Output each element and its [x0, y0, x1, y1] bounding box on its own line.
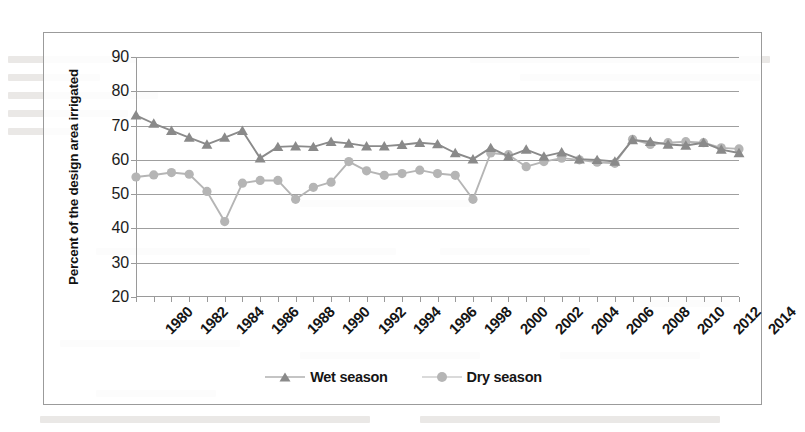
x-tick-label-2014: 2014: [764, 303, 798, 337]
data-point: [202, 187, 211, 196]
data-point: [415, 166, 424, 175]
data-point: [185, 170, 194, 179]
data-point: [522, 162, 531, 171]
series-dry-season: [131, 135, 743, 226]
legend-item-dry-season[interactable]: Dry season: [422, 369, 542, 385]
y-tick-label-30: 30: [112, 254, 129, 272]
x-tick-label-1992: 1992: [374, 303, 408, 337]
data-point: [468, 195, 477, 204]
data-point: [166, 126, 177, 135]
chart-figure-frame: Percent of the design area irrigated 908…: [43, 32, 762, 405]
y-tick-label-80: 80: [112, 82, 129, 100]
x-tick-label-2012: 2012: [729, 303, 763, 337]
data-point: [521, 144, 532, 153]
x-tick-label-1988: 1988: [303, 303, 337, 337]
series-line: [136, 139, 739, 221]
chart-legend: Wet season Dry season: [44, 369, 763, 385]
legend-marker-wet-season: [265, 369, 305, 385]
legend-item-wet-season[interactable]: Wet season: [265, 369, 387, 385]
data-point: [167, 168, 176, 177]
x-tick-label-1996: 1996: [445, 303, 479, 337]
data-point: [450, 148, 461, 157]
y-tick-label-50: 50: [112, 185, 129, 203]
data-point: [131, 110, 142, 119]
x-tick-label-2006: 2006: [622, 303, 656, 337]
y-tick-label-60: 60: [112, 151, 129, 169]
data-point: [273, 176, 282, 185]
series-wet-season: [131, 110, 745, 166]
x-tick-label-2000: 2000: [516, 303, 550, 337]
data-point: [237, 126, 248, 135]
y-tick-label-90: 90: [112, 48, 129, 66]
x-tick-label-2008: 2008: [658, 303, 692, 337]
data-point: [433, 169, 442, 178]
data-point: [131, 172, 140, 181]
data-point: [220, 217, 229, 226]
data-point: [255, 153, 266, 162]
data-point: [291, 195, 300, 204]
data-point: [451, 171, 460, 180]
series-plot: [136, 57, 739, 297]
x-tick-label-1998: 1998: [481, 303, 515, 337]
x-tick-label-1986: 1986: [268, 303, 302, 337]
x-tick-label-1982: 1982: [197, 303, 231, 337]
y-tick-label-70: 70: [112, 117, 129, 135]
x-tick-label-1990: 1990: [339, 303, 373, 337]
data-point: [556, 147, 567, 156]
data-point: [397, 169, 406, 178]
x-tick-label-2002: 2002: [551, 303, 585, 337]
x-tick-label-2004: 2004: [587, 303, 621, 337]
x-tick-2014: [739, 297, 740, 302]
x-tick-label-1984: 1984: [232, 303, 266, 337]
y-tick-label-40: 40: [112, 219, 129, 237]
y-tick-label-20: 20: [112, 288, 129, 306]
data-point: [256, 176, 265, 185]
legend-label-wet-season: Wet season: [310, 369, 387, 385]
data-point: [309, 183, 318, 192]
legend-label-dry-season: Dry season: [467, 369, 542, 385]
data-point: [344, 157, 353, 166]
data-point: [485, 143, 496, 152]
data-point: [238, 179, 247, 188]
data-point: [380, 171, 389, 180]
plot-area: 9080706050403020: [136, 57, 739, 297]
data-point: [149, 170, 158, 179]
data-point: [326, 178, 335, 187]
x-axis-labels: 1980198219841986198819901992199419961998…: [136, 299, 739, 369]
data-point: [362, 166, 371, 175]
x-tick-label-1994: 1994: [410, 303, 444, 337]
data-point: [148, 118, 159, 127]
legend-marker-dry-season: [422, 369, 462, 385]
y-axis-title: Percent of the design area irrigated: [66, 61, 84, 293]
x-tick-label-2010: 2010: [693, 303, 727, 337]
x-tick-label-1980: 1980: [161, 303, 195, 337]
